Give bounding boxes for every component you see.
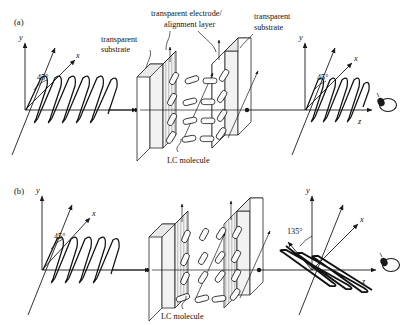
lcd-diagram-svg: (a) y x 45° (0, 0, 409, 325)
panel-a-label: (a) (14, 17, 24, 27)
callout-b-lc-line1: LC molecule (161, 312, 204, 321)
callout-electrode-line1: transparent electrode/ (151, 9, 222, 18)
callout-right-line1: transparent (254, 12, 291, 21)
figure-root: (a) y x 45° (0, 0, 409, 325)
panel-b-output-y-label: y (305, 186, 310, 195)
callout-lc-line1: LC molecule (167, 156, 210, 165)
panel-b-input-x-label: x (91, 209, 96, 218)
panel-a-input-y-label: y (18, 33, 23, 42)
callout-left-line2: substrate (101, 45, 130, 54)
panel-a-output-angle: 45° (317, 73, 328, 82)
panel-b-output-angle: 135° (287, 227, 303, 236)
panel-b-label: (b) (14, 186, 24, 196)
callout-right-line2: substrate (254, 23, 283, 32)
panel-a-output-y-label: y (298, 33, 303, 42)
callout-left-line1: transparent (101, 35, 138, 44)
panel-b-input-y-label: y (35, 186, 40, 195)
panel-a-input-x-label: x (75, 51, 80, 60)
panel-a-output-z-label: z (357, 117, 362, 126)
callout-electrode-line2: alignment layer (164, 20, 215, 29)
panel-a-output-x-label: x (353, 54, 358, 63)
panel-b-output-x-label: x (359, 215, 364, 224)
